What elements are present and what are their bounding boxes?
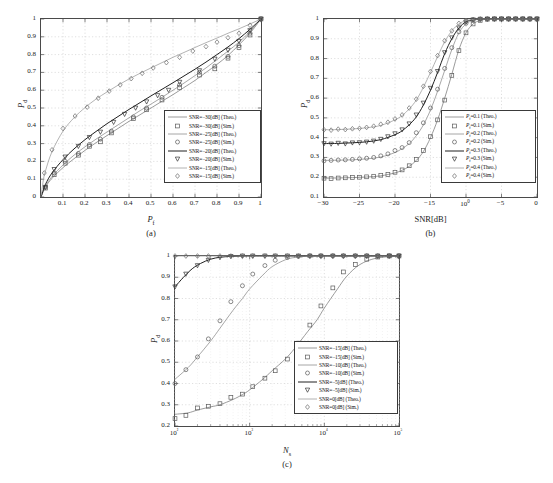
y-tick-label: 0.6: [14, 85, 36, 93]
legend-label: Pf=0.3 (Theo.): [465, 147, 496, 155]
legend-item[interactable]: Pf=0.3 (Sim.): [444, 155, 532, 163]
legend-line-swatch: [297, 395, 318, 403]
legend-marker-triangle-down-icon: [444, 155, 465, 163]
legend-marker-triangle-down-icon: [297, 386, 318, 394]
legend-line-swatch: [444, 113, 465, 121]
y-tick-label: 0.8: [148, 294, 170, 302]
y-tick-label: 0.1: [297, 192, 319, 200]
legend-marker-circle-icon: [297, 369, 318, 377]
legend-line-swatch: [167, 147, 188, 155]
y-tick-label: 0.7: [14, 67, 36, 75]
legend-item[interactable]: SNR=−15[dB] (Sim.): [167, 172, 257, 180]
y-tick-label: 0.4: [148, 379, 170, 387]
y-tick-label: 0.9: [148, 272, 170, 280]
y-tick-label: 1: [14, 14, 36, 22]
legend-c[interactable]: SNR=−15[dB] (Theo.)SNR=−15[dB] (Sim.)SNR…: [294, 341, 398, 414]
legend-label: SNR=−20[dB] (Sim.): [188, 156, 234, 162]
legend-item[interactable]: Pf=0.1 (Sim.): [444, 121, 532, 129]
legend-line-swatch: [167, 130, 188, 138]
legend-marker-circle-icon: [167, 138, 188, 146]
legend-item[interactable]: SNR=−25[dB] (Sim.): [167, 138, 257, 146]
legend-marker-diamond-icon: [444, 172, 465, 180]
y-tick-label: 0.2: [297, 172, 319, 180]
legend-item[interactable]: SNR=−30[dB] (Theo.): [167, 113, 257, 121]
panel-caption-b: (b): [323, 228, 538, 238]
legend-label: SNR=−15[dB] (Sim.): [188, 173, 234, 179]
x-axis-label-c: Ns: [174, 445, 400, 457]
legend-label: SNR=−5[dB] (Sim.): [318, 387, 361, 393]
y-tick-label: 1: [297, 14, 319, 22]
legend-item[interactable]: Pf=0.2 (Theo.): [444, 130, 532, 138]
legend-marker-diamond-icon: [297, 403, 318, 411]
legend-item[interactable]: Pf=0.3 (Theo.): [444, 147, 532, 155]
legend-label: SNR=0[dB] (Sim.): [318, 404, 358, 410]
legend-label: Pf=0.2 (Theo.): [465, 130, 496, 138]
legend-item[interactable]: SNR=−5[dB] (Sim.): [297, 386, 394, 394]
legend-a[interactable]: SNR=−30[dB] (Theo.)SNR=−30[dB] (Sim.)SNR…: [164, 110, 261, 183]
legend-item[interactable]: Pf=0.1 (Theo.): [444, 113, 532, 121]
legend-b[interactable]: Pf=0.1 (Theo.)Pf=0.1 (Sim.)Pf=0.2 (Theo.…: [441, 110, 536, 183]
x-tick-label: −25: [345, 199, 373, 207]
y-tick-label: 0.3: [297, 152, 319, 160]
series-line: [175, 256, 399, 287]
legend-label: SNR=0[dB] (Theo.): [318, 396, 361, 402]
x-tick-label: −20: [380, 199, 408, 207]
legend-line-swatch: [444, 130, 465, 138]
panel-caption-c: (c): [174, 459, 400, 469]
legend-item[interactable]: SNR=−5[dB] (Theo.): [297, 378, 394, 386]
legend-item[interactable]: SNR=−15[dB] (Theo.): [167, 163, 257, 171]
legend-label: Pf=0.4 (Sim.): [465, 172, 494, 180]
y-tick-label: 0.2: [148, 421, 170, 429]
figure-root: Pd Pf (a) 0.10.20.30.40.50.60.70.80.9100…: [0, 0, 553, 483]
legend-line-swatch: [297, 344, 318, 352]
y-tick-label: 0.3: [148, 400, 170, 408]
y-tick-label: 0.8: [297, 54, 319, 62]
x-tick-label: 10³: [235, 428, 263, 437]
legend-label: SNR=−30[dB] (Sim.): [188, 123, 234, 129]
x-tick-label: 1: [246, 199, 274, 207]
legend-line-swatch: [167, 113, 188, 121]
legend-line-swatch: [444, 164, 465, 172]
legend-label: Pf=0.4 (Theo.): [465, 164, 496, 172]
legend-item[interactable]: SNR=−10[dB] (Sim.): [297, 369, 394, 377]
y-tick-label: 1: [148, 251, 170, 259]
legend-label: Pf=0.1 (Sim.): [465, 122, 494, 130]
legend-line-swatch: [297, 361, 318, 369]
legend-label: SNR=−30[dB] (Theo.): [188, 114, 236, 120]
legend-item[interactable]: Pf=0.4 (Theo.): [444, 163, 532, 171]
y-tick-label: 0.5: [297, 113, 319, 121]
x-axis-label-b: SNR[dB]: [323, 214, 538, 224]
y-tick-label: 0.9: [297, 34, 319, 42]
x-tick-label: 10⁴: [309, 428, 337, 437]
panel-b: Pd SNR[dB] (b) −30−25−20−15100−500.10.20…: [285, 6, 553, 244]
legend-item[interactable]: Pf=0.4 (Sim.): [444, 172, 532, 180]
y-tick-label: 0.1: [14, 174, 36, 182]
y-tick-label: 0.5: [14, 103, 36, 111]
legend-item[interactable]: SNR=−20[dB] (Theo.): [167, 147, 257, 155]
legend-item[interactable]: SNR=−15[dB] (Sim.): [297, 352, 394, 360]
x-tick-label: −15: [416, 199, 444, 207]
legend-marker-circle-icon: [444, 138, 465, 146]
y-tick-label: 0.8: [14, 50, 36, 58]
legend-item[interactable]: SNR=−25[dB] (Theo.): [167, 130, 257, 138]
x-axis-label-a: Pf: [40, 214, 262, 226]
legend-item[interactable]: SNR=−10[dB] (Theo.): [297, 361, 394, 369]
legend-item[interactable]: SNR=−15[dB] (Theo.): [297, 344, 394, 352]
y-tick-label: 0.7: [148, 315, 170, 323]
legend-label: SNR=−15[dB] (Theo.): [318, 345, 366, 351]
legend-label: SNR=−25[dB] (Theo.): [188, 131, 236, 137]
legend-marker-square-icon: [297, 353, 318, 361]
legend-marker-triangle-down-icon: [167, 155, 188, 163]
legend-marker-square-icon: [167, 122, 188, 130]
legend-line-swatch: [297, 378, 318, 386]
legend-item[interactable]: SNR=0[dB] (Theo.): [297, 394, 394, 402]
legend-item[interactable]: SNR=−30[dB] (Sim.): [167, 121, 257, 129]
legend-item[interactable]: SNR=−20[dB] (Sim.): [167, 155, 257, 163]
legend-marker-square-icon: [444, 122, 465, 130]
legend-item[interactable]: SNR=0[dB] (Sim.): [297, 403, 394, 411]
legend-label: SNR=−20[dB] (Theo.): [188, 148, 236, 154]
legend-label: SNR=−15[dB] (Sim.): [318, 354, 364, 360]
y-tick-label: 0: [14, 192, 36, 200]
panel-caption-a: (a): [40, 228, 262, 238]
legend-item[interactable]: Pf=0.2 (Sim.): [444, 138, 532, 146]
